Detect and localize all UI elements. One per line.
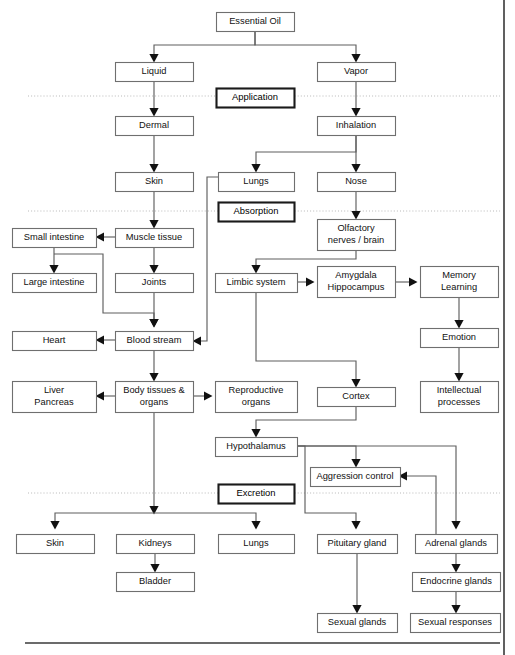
node-body-tissues[interactable]: Body tissues &organs xyxy=(116,382,194,413)
node-endocrine-glands[interactable]: Endocrine glands xyxy=(413,573,501,592)
node-label: Large intestine xyxy=(24,277,85,287)
edge-body-tissues-to-excretion-branch xyxy=(149,412,158,515)
node-dermal[interactable]: Dermal xyxy=(116,117,194,136)
edges xyxy=(49,31,463,614)
edge-dermal-to-skin-top xyxy=(149,135,158,173)
edge-line xyxy=(154,31,255,56)
node-label: Heart xyxy=(43,335,66,345)
node-label: Cortex xyxy=(342,391,370,401)
node-aggression-control[interactable]: Aggression control xyxy=(311,468,401,487)
node-intellectual[interactable]: Intellectualprocesses xyxy=(421,382,499,413)
arrowhead-icon xyxy=(50,521,59,530)
node-label: Memory xyxy=(442,270,476,280)
arrowhead-icon xyxy=(306,277,315,286)
node-absorption[interactable]: Absorption xyxy=(219,203,295,222)
node-label: Limbic system xyxy=(227,277,286,287)
node-blood-stream[interactable]: Blood stream xyxy=(116,332,194,351)
arrowhead-icon xyxy=(351,54,360,63)
node-skin-bottom[interactable]: Skin xyxy=(17,535,95,554)
node-liquid[interactable]: Liquid xyxy=(116,63,194,82)
edge-line xyxy=(256,135,356,166)
edge-essential-oil-to-vapor xyxy=(255,31,361,63)
node-bladder[interactable]: Bladder xyxy=(117,573,195,592)
arrowhead-icon xyxy=(409,277,418,286)
node-label: Intellectual xyxy=(437,385,481,395)
node-sexual-glands[interactable]: Sexual glands xyxy=(318,614,398,633)
edge-skin-top-to-muscle-tissue xyxy=(149,191,158,229)
edge-line xyxy=(405,476,436,534)
node-label: Olfactory xyxy=(337,223,375,233)
node-amygdala[interactable]: AmygdalaHippocampus xyxy=(318,267,396,298)
edge-memory-learning-to-emotion xyxy=(454,297,463,329)
edge-line xyxy=(154,513,256,528)
node-label: Lungs xyxy=(243,176,269,186)
node-large-intestine[interactable]: Large intestine xyxy=(13,274,97,293)
node-label: Skin xyxy=(145,176,163,186)
node-label: Pancreas xyxy=(34,397,74,407)
node-vapor[interactable]: Vapor xyxy=(318,63,396,82)
node-essential-oil[interactable]: Essential Oil xyxy=(217,13,295,32)
edge-line xyxy=(55,513,154,528)
arrowhead-icon xyxy=(149,265,158,274)
arrowhead-icon xyxy=(351,459,360,468)
flowchart-page: Essential OilLiquidVaporApplicationDerma… xyxy=(0,0,515,655)
edge-nose-to-olfactory xyxy=(351,191,360,220)
arrowhead-icon xyxy=(352,605,361,614)
node-label: Sexual responses xyxy=(418,617,492,627)
edge-adrenal-glands-to-endocrine-glands xyxy=(451,553,460,573)
node-lungs-top[interactable]: Lungs xyxy=(219,173,295,192)
node-lungs-bottom[interactable]: Lungs xyxy=(219,535,295,554)
node-label: organs xyxy=(140,397,169,407)
node-label: processes xyxy=(438,397,481,407)
node-memory-learning[interactable]: MemoryLearning xyxy=(421,267,499,298)
edge-inhalation-to-lungs-top xyxy=(251,135,356,173)
edge-blood-stream-to-heart xyxy=(96,335,116,344)
arrowhead-icon xyxy=(351,164,360,173)
node-kidneys[interactable]: Kidneys xyxy=(117,535,195,554)
node-limbic-system[interactable]: Limbic system xyxy=(216,274,298,293)
node-skin-top[interactable]: Skin xyxy=(116,173,194,192)
edge-emotion-to-intellectual xyxy=(454,347,463,382)
edge-joints-to-blood-stream xyxy=(149,292,158,328)
node-application[interactable]: Application xyxy=(217,89,295,108)
edge-body-tissues-branch-to-lungs-bottom xyxy=(154,513,261,530)
edge-line xyxy=(199,177,218,341)
arrowhead-icon xyxy=(351,211,360,220)
node-label: Dermal xyxy=(139,120,169,130)
node-liver-pancreas[interactable]: LiverPancreas xyxy=(13,382,97,413)
node-label: Lungs xyxy=(243,538,269,548)
node-pituitary-gland[interactable]: Pituitary gland xyxy=(318,535,398,554)
node-small-intestine[interactable]: Small intestine xyxy=(13,229,97,248)
arrowhead-icon xyxy=(150,564,159,573)
node-hypothalamus[interactable]: Hypothalamus xyxy=(216,438,298,457)
node-reproductive-organs[interactable]: Reproductiveorgans xyxy=(216,382,298,413)
node-heart[interactable]: Heart xyxy=(13,332,97,351)
node-label: Endocrine glands xyxy=(420,576,492,586)
edge-pituitary-gland-to-sexual-glands xyxy=(352,553,361,614)
node-muscle-tissue[interactable]: Muscle tissue xyxy=(116,229,194,248)
arrowhead-icon xyxy=(451,564,460,573)
arrowhead-icon xyxy=(149,319,158,328)
arrowhead-icon xyxy=(149,373,158,382)
arrowhead-icon xyxy=(451,605,460,614)
node-sexual-responses[interactable]: Sexual responses xyxy=(411,614,501,633)
node-cortex[interactable]: Cortex xyxy=(318,388,396,407)
node-label: Liver xyxy=(44,385,64,395)
edge-line xyxy=(256,250,356,267)
arrowhead-icon xyxy=(351,108,360,117)
edge-body-tissues-branch-to-skin-bottom xyxy=(50,513,154,530)
node-adrenal-glands[interactable]: Adrenal glands xyxy=(416,535,498,554)
node-label: nerves / brain xyxy=(328,235,384,245)
node-label: Essential Oil xyxy=(229,16,281,26)
node-label: Absorption xyxy=(234,205,279,216)
arrowhead-icon xyxy=(251,265,260,274)
node-label: Application xyxy=(232,91,278,102)
node-joints[interactable]: Joints xyxy=(116,274,194,293)
node-inhalation[interactable]: Inhalation xyxy=(318,117,396,136)
node-nose[interactable]: Nose xyxy=(318,173,396,192)
node-label: Kidneys xyxy=(138,538,171,548)
node-olfactory[interactable]: Olfactorynerves / brain xyxy=(318,220,396,251)
node-excretion[interactable]: Excretion xyxy=(219,485,295,504)
node-emotion[interactable]: Emotion xyxy=(421,329,499,348)
edge-limbic-system-to-amygdala xyxy=(297,277,315,286)
